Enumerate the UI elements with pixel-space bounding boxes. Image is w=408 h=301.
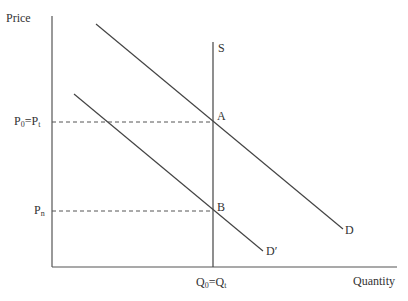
pn-base: P [34,203,41,217]
p0-base: P [14,114,21,128]
quantity-label-q0-equals-qt: Q0=Qt [196,276,226,290]
pt-sub: t [38,120,40,129]
point-b-label: B [217,201,225,213]
x-axis-label: Quantity [353,275,395,287]
point-a-label: A [217,110,226,122]
qt-sub: t [224,281,226,290]
q0-base: Q [196,275,205,289]
demand-label: D [345,224,354,236]
supply-label: S [218,42,225,54]
shifted-demand-curve [74,94,263,251]
pn-sub: n [41,209,45,218]
supply-demand-diagram [0,0,408,301]
shifted-demand-label: D′ [266,245,277,257]
price-label-p0-equals-pt: P0=Pt [14,115,40,129]
price-label-pn: Pn [34,204,45,218]
y-axis-label: Price [6,12,31,24]
qt-base: Q [215,275,224,289]
